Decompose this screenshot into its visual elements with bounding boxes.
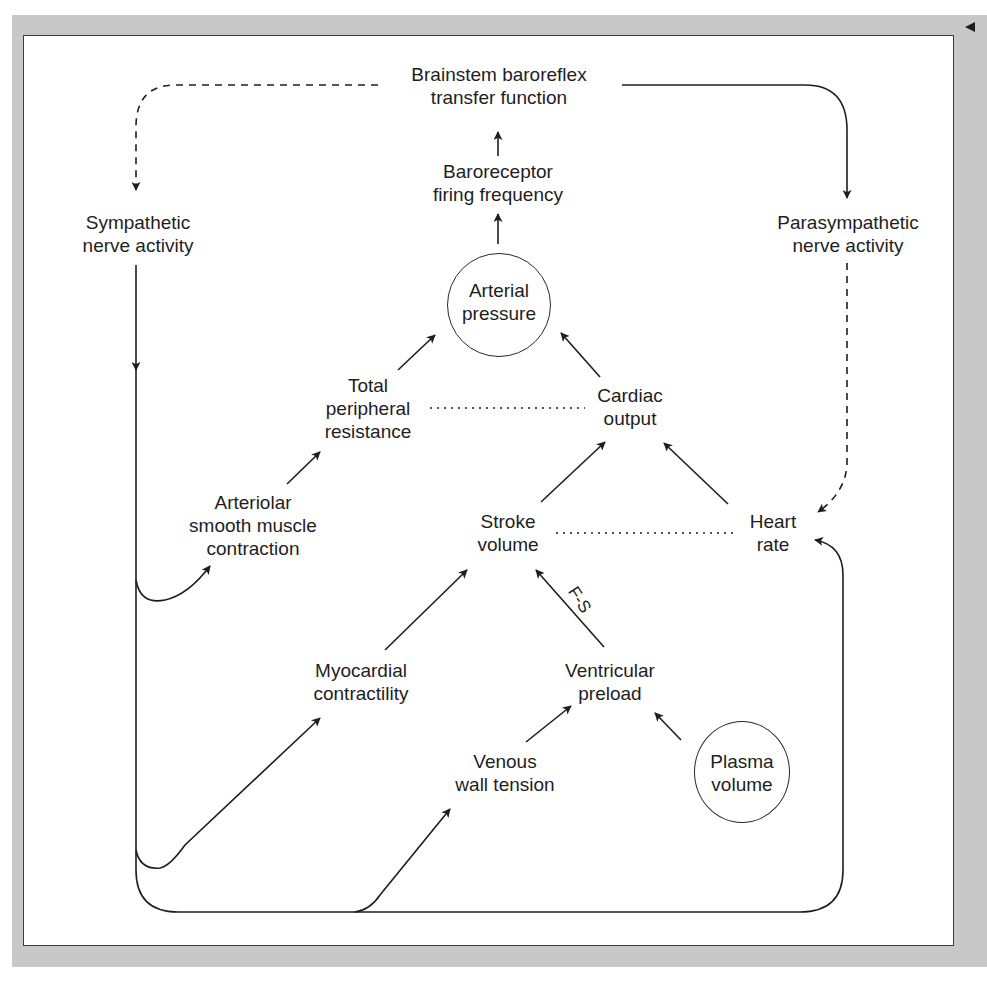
node-cardiac-output: Cardiac output — [597, 384, 662, 430]
node-total-peripheral-resistance: Total peripheral resistance — [325, 374, 412, 443]
edge-myocardial-to-sv — [385, 570, 467, 650]
node-parasympathetic-activity: Parasympathetic nerve activity — [777, 211, 919, 257]
edge-sympathetic-to-myocardial — [136, 718, 320, 868]
node-heart-rate: Heart rate — [750, 510, 796, 556]
edge-brainstem-to-sympathetic — [136, 85, 378, 190]
node-ventricular-preload: Ventricular preload — [565, 659, 655, 705]
edge-sympathetic-to-arteriolar — [136, 566, 210, 601]
node-brainstem-baroreflex: Brainstem baroreflex transfer function — [411, 63, 586, 109]
edge-tpr-to-arterial — [398, 335, 435, 370]
edge-venous-to-preload — [526, 706, 571, 742]
node-venous-wall-tension: Venous wall tension — [455, 750, 554, 796]
edge-arteriolar-to-tpr — [287, 452, 320, 484]
edge-brainstem-to-parasympathetic — [622, 85, 847, 198]
edge-plasma-to-preload — [655, 713, 681, 740]
edge-co-to-arterial — [561, 333, 600, 377]
edge-preload-to-sv — [536, 570, 604, 647]
edge-sv-to-co — [541, 442, 605, 502]
node-myocardial-contractility: Myocardial contractility — [313, 659, 408, 705]
node-baroreceptor-firing: Baroreceptor firing frequency — [433, 160, 563, 206]
node-stroke-volume: Stroke volume — [477, 510, 538, 556]
node-plasma-volume: Plasma volume — [710, 750, 773, 796]
edge-sympathetic-to-venous — [355, 809, 450, 912]
node-arterial-pressure: Arterial pressure — [462, 279, 536, 325]
node-sympathetic-activity: Sympathetic nerve activity — [83, 211, 194, 257]
edge-sympathetic-trunk-lower — [136, 370, 843, 912]
node-arteriolar-smooth-muscle: Arteriolar smooth muscle contraction — [189, 491, 317, 560]
edge-parasympathetic-to-heartrate — [818, 263, 847, 512]
edge-hr-to-co — [664, 443, 728, 504]
